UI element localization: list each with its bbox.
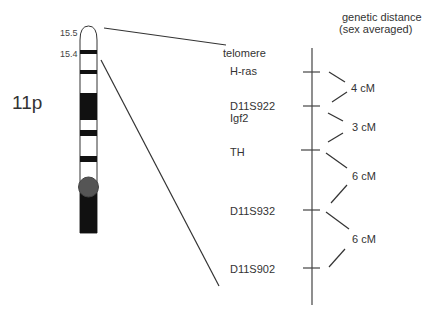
band-label: 15.4: [60, 49, 78, 59]
distance-label: 3 cM: [352, 121, 376, 133]
distance-label: 6 cM: [352, 233, 376, 245]
marker-label: TH: [230, 146, 245, 158]
distance-label: 4 cM: [351, 82, 375, 94]
marker-label: H-ras: [230, 65, 257, 77]
marker-label: D11S902: [230, 263, 275, 275]
band: [80, 93, 97, 120]
zoom-line-bottom: [101, 60, 219, 286]
distance-label: 6 cM: [352, 170, 376, 182]
band: [80, 70, 97, 74]
header-line2: (sex averaged): [339, 23, 412, 35]
band: [80, 156, 97, 162]
band: [80, 130, 97, 136]
diagram-graphics: [0, 0, 434, 314]
band: [80, 50, 97, 54]
arm-label: 11p: [12, 92, 42, 114]
band-label: 15.5: [60, 28, 78, 38]
centromere: [79, 177, 99, 197]
telomere-label: telomere: [223, 47, 266, 59]
marker-label: Igf2: [230, 112, 248, 124]
marker-label: D11S922: [230, 100, 275, 112]
marker-label: D11S932: [230, 205, 275, 217]
band: [80, 193, 97, 233]
zoom-line-top: [104, 28, 226, 45]
header-line1: genetic distance: [342, 11, 422, 23]
